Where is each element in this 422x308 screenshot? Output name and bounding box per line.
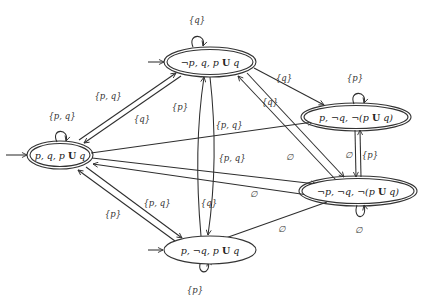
label-n3-n2: {p} <box>362 150 378 160</box>
state-label-n1: ¬p, q, p U q <box>181 57 240 68</box>
label-loop-n0: {p, q} <box>48 111 75 121</box>
label-n3-n0: ∅ <box>250 189 258 199</box>
state-n2[interactable]: p, ¬q, ¬(p U q) <box>301 103 411 131</box>
state-label-n4: p, ¬q, p U q <box>181 245 240 256</box>
loop-n0 <box>56 131 67 142</box>
edge-n0-n2 <box>91 122 313 153</box>
label-n3-n4: ∅ <box>278 224 286 234</box>
label-n0-n4: {p, q} <box>143 198 170 208</box>
label-loop-n1: {q} <box>189 15 205 25</box>
edge-n1-n4 <box>208 77 214 235</box>
loop-n3 <box>356 205 365 217</box>
label-n0-n2: {p, q} <box>215 120 242 130</box>
state-label-n3: ¬p, ¬q, ¬(p U q) <box>317 186 399 197</box>
edge-n3-n4 <box>220 202 327 240</box>
label-loop-n4: {p} <box>187 285 203 295</box>
label-n4-n1: {p} <box>172 102 188 112</box>
edge-n4-n1 <box>198 77 204 236</box>
edge-n3-n2 <box>360 130 361 177</box>
label-n1-n2: {q} <box>276 73 292 83</box>
label-n3-n1: ∅ <box>286 152 294 162</box>
label-n1-n4: {q} <box>201 198 217 208</box>
state-n4[interactable]: p, ¬q, p U q <box>164 236 256 264</box>
label-n0-n1: {p, q} <box>94 91 121 101</box>
edge-n0-n1 <box>79 73 176 140</box>
label-n1-n3: {q} <box>262 97 278 107</box>
label-n4-n0: {p} <box>105 209 121 219</box>
edge-n1-n0 <box>84 76 181 143</box>
state-n1[interactable]: ¬p, q, p U q <box>164 47 256 77</box>
automaton-diagram: p, q, p U q ¬p, q, p U q p, ¬q, ¬(p U q)… <box>0 0 422 308</box>
state-label-n2: p, ¬q, ¬(p U q) <box>319 112 393 123</box>
label-loop-n3: ∅ <box>355 225 363 235</box>
label-n1-n0: {q} <box>134 114 150 124</box>
state-n3[interactable]: ¬p, ¬q, ¬(p U q) <box>299 176 417 206</box>
edge-n2-n3 <box>355 130 356 177</box>
state-label-n0: p, q, p U q <box>35 150 86 161</box>
label-n2-n3: ∅ <box>345 150 353 160</box>
state-n0[interactable]: p, q, p U q <box>27 141 93 169</box>
loop-n2 <box>353 93 365 104</box>
loop-n1 <box>192 36 204 47</box>
label-n0-n3: {p, q} <box>218 153 245 163</box>
label-loop-n2: {p} <box>347 73 363 83</box>
